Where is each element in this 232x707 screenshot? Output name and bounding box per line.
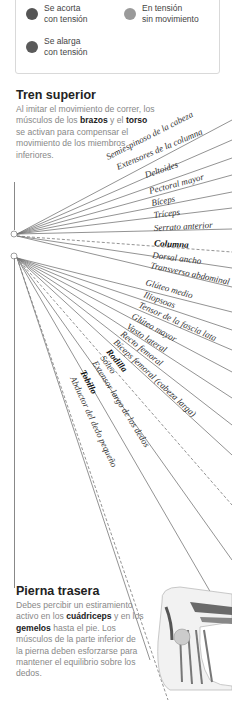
upper-anchor-icon [11, 231, 17, 237]
foot-anatomy-illustration [150, 582, 232, 692]
label-biceps: Bíceps [150, 193, 176, 207]
lower-body: Debes percibir un estiramiento activo en… [16, 600, 144, 680]
label-columna: Columna [154, 238, 189, 250]
label-triceps: Tríceps [153, 207, 181, 220]
label-serrato: Serrato anterior [154, 220, 214, 233]
label-deltoides: Deltoides [142, 159, 179, 180]
lower-anchor-icon [11, 253, 17, 259]
lower-title: Pierna trasera [16, 584, 99, 598]
